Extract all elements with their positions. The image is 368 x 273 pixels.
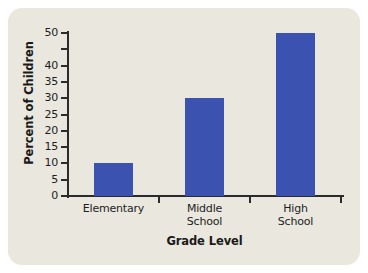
bar — [276, 33, 314, 196]
category-label-line: School — [240, 215, 351, 228]
bar — [185, 98, 223, 196]
y-axis-tick-label: 5 — [18, 173, 58, 186]
y-axis-tick-label: 15 — [18, 140, 58, 153]
y-axis-tick — [61, 32, 68, 34]
category-label-line: High — [240, 202, 351, 215]
y-axis-tick-label: 35 — [18, 75, 58, 88]
x-axis-category-label: HighSchool — [240, 202, 351, 228]
y-axis-tick — [61, 195, 68, 197]
y-axis-tick-label: 50 — [18, 26, 58, 39]
y-axis-tick-label: 10 — [18, 156, 58, 169]
bar — [94, 163, 132, 196]
y-axis-tick-label: 20 — [18, 124, 58, 137]
y-axis-tick-label: 25 — [18, 108, 58, 121]
x-axis-title: Grade Level — [68, 234, 341, 248]
y-axis-tick — [61, 81, 68, 83]
y-axis-tick — [61, 130, 68, 132]
y-axis-tick — [61, 162, 68, 164]
plot-area — [68, 33, 341, 196]
y-axis-tick-label: 30 — [18, 91, 58, 104]
y-axis-tick — [61, 146, 68, 148]
y-axis-tick — [61, 97, 68, 99]
y-axis-tick — [61, 114, 68, 116]
y-axis-tick — [61, 179, 68, 181]
y-axis-tick — [61, 48, 68, 50]
y-axis-tick-label: 0 — [18, 189, 58, 202]
y-axis-tick — [61, 65, 68, 67]
bar-chart-figure: Percent of Children 051015202530354050 E… — [0, 0, 368, 273]
y-axis-tick-label: 40 — [18, 59, 58, 72]
